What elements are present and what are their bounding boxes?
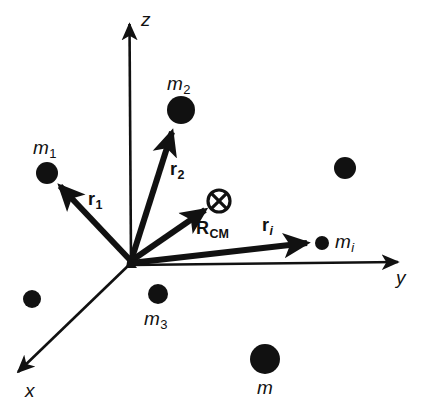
mass-label-m1-sub: 1 xyxy=(49,146,56,161)
vector-label-ri-main: r xyxy=(262,215,269,235)
mass-label-m3-sub: 3 xyxy=(160,317,167,332)
vector-label-r1-sub: 1 xyxy=(96,198,103,212)
mass-label-m2-main: m xyxy=(167,73,183,94)
physics-diagram-figure: z y x r1 r2 RCM ri m1 m2 m3 mi m xyxy=(0,0,437,403)
mass-label-m2: m2 xyxy=(167,74,191,96)
vector-r2 xyxy=(131,132,172,261)
axis-z xyxy=(130,24,132,261)
mass-label-m-main: m xyxy=(257,377,273,398)
mass-label-m2-sub: 2 xyxy=(183,82,190,97)
mass-label-m3-main: m xyxy=(144,308,160,329)
mass-label-mi: mi xyxy=(335,232,354,254)
vector-label-ri-sub: i xyxy=(270,224,273,238)
axis-x xyxy=(18,263,131,372)
mass-label-m1-main: m xyxy=(33,137,49,158)
vector-label-Rcm: RCM xyxy=(196,219,229,240)
vector-label-Rcm-sub: CM xyxy=(210,227,229,241)
mass-label-m: m xyxy=(257,378,273,397)
mass-dot-m xyxy=(250,344,280,374)
vector-label-Rcm-main: R xyxy=(196,218,209,238)
mass-dot-m1 xyxy=(36,162,58,184)
vector-label-r1: r1 xyxy=(88,190,102,211)
center-of-mass-marker xyxy=(208,190,230,212)
mass-dot-unlabeled-lower-left xyxy=(23,290,41,308)
vector-label-r1-main: r xyxy=(88,189,95,209)
vector-label-r2-main: r xyxy=(170,159,177,179)
mass-label-mi-main: m xyxy=(335,231,351,252)
mass-label-mi-sub: i xyxy=(351,240,354,255)
mass-label-m1: m1 xyxy=(33,138,57,160)
axis-y xyxy=(131,262,398,265)
vector-label-r2: r2 xyxy=(170,160,184,181)
vector-label-r2-sub: 2 xyxy=(178,168,185,182)
vector-label-ri: ri xyxy=(262,216,273,237)
diagram-canvas xyxy=(0,0,437,403)
axis-label-x: x xyxy=(25,381,35,400)
mass-dot-unlabeled-upper-right xyxy=(334,157,356,179)
mass-dot-mi xyxy=(315,236,329,250)
axis-label-z: z xyxy=(141,10,151,29)
mass-dot-m2 xyxy=(167,96,195,124)
mass-dot-m3 xyxy=(148,284,168,304)
mass-label-m3: m3 xyxy=(144,309,168,331)
axis-label-y: y xyxy=(396,268,406,287)
